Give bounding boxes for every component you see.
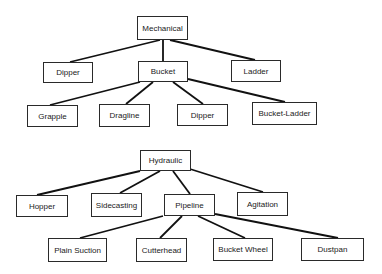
node-ladder: Ladder: [231, 60, 281, 82]
node-agitation: Agitation: [237, 192, 288, 216]
link-pipeline-cutterhead: [160, 216, 182, 238]
node-hydraulic: Hydraulic: [140, 150, 191, 171]
link-bucket-grapple: [50, 82, 140, 105]
node-dustpan: Dustpan: [301, 238, 364, 261]
link-pipeline-plain-suction: [80, 216, 163, 238]
node-cutterhead: Cutterhead: [136, 238, 187, 262]
link-hydraulic-agitation: [190, 169, 263, 192]
node-dragline: Dragline: [99, 104, 150, 127]
node-hopper: Hopper: [16, 195, 68, 217]
link-bucket-dipper: [173, 82, 203, 104]
node-bucket: Bucket: [138, 61, 188, 82]
node-mechanical: Mechanical: [137, 16, 188, 40]
node-dipper: Dipper: [43, 62, 93, 83]
node-dipper: Dipper: [177, 104, 228, 126]
connector-lines: [0, 0, 382, 274]
node-plain-suction: Plain Suction: [48, 238, 107, 262]
link-mechanical-dipper: [70, 40, 160, 62]
link-mechanical-ladder: [170, 40, 255, 60]
node-bucket-wheel: Bucket Wheel: [213, 238, 273, 261]
link-pipeline-dustpan: [215, 214, 338, 238]
node-sidecasting: Sidecasting: [91, 193, 142, 217]
link-bucket-bucket-ladder: [188, 79, 285, 102]
node-pipeline: Pipeline: [164, 194, 215, 216]
link-hydraulic-pipeline: [173, 171, 190, 194]
node-grapple: Grapple: [27, 105, 78, 127]
node-bucket-ladder: Bucket-Ladder: [252, 102, 317, 125]
